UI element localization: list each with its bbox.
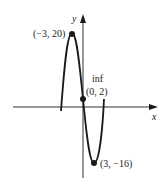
inflection-tag-label: inf	[92, 73, 104, 84]
y-axis-arrow-icon	[80, 14, 86, 23]
local-max-point	[69, 31, 75, 37]
chart-canvas: (−3, 20) inf (0, 2) (3, −16) x y	[0, 0, 165, 187]
local-min-point	[91, 160, 97, 166]
x-axis-arrow-icon	[149, 104, 158, 110]
min-point-label: (3, −16)	[100, 158, 132, 170]
y-axis-label: y	[71, 13, 77, 24]
inflection-point-label: (0, 2)	[86, 86, 108, 98]
x-axis-label: x	[151, 111, 157, 122]
max-point-label: (−3, 20)	[33, 28, 65, 40]
